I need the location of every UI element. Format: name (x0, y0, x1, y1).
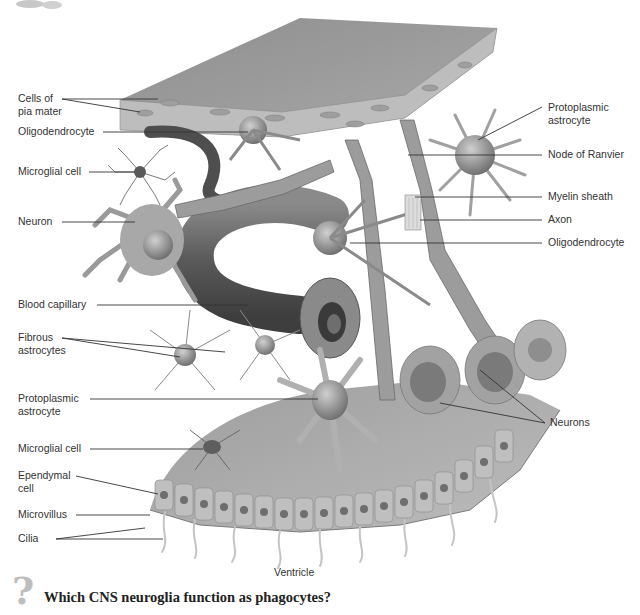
microglial-cell-upper (108, 145, 175, 205)
myelin-sheath-detail (405, 195, 421, 230)
ependymal-layer (150, 380, 560, 568)
label-protoplasmic-astrocyte-left: Protoplasmic astrocyte (18, 392, 79, 418)
protoplasmic-astrocyte-right (430, 110, 525, 215)
label-microglial-cell-upper: Microglial cell (18, 165, 81, 178)
label-protoplasmic-astrocyte-right: Protoplasmic astrocyte (548, 101, 609, 127)
label-node-of-ranvier: Node of Ranvier (548, 148, 624, 161)
label-microvillus: Microvillus (18, 508, 67, 521)
label-microglial-cell-lower: Microglial cell (18, 442, 81, 455)
label-oligodendrocyte-left: Oligodendrocyte (18, 125, 94, 138)
label-ventricle: Ventricle (274, 566, 314, 579)
label-axon: Axon (548, 213, 572, 226)
neuron-left (85, 180, 195, 300)
label-neuron: Neuron (18, 215, 52, 228)
question-mark-icon: ? (12, 572, 34, 610)
label-neurons: Neurons (550, 416, 590, 429)
review-question: Which CNS neuroglia function as phagocyt… (44, 589, 331, 606)
neuroglia-illustration (0, 0, 640, 615)
myelinated-axons (175, 120, 505, 400)
corner-mark (16, 0, 62, 9)
label-myelin-sheath: Myelin sheath (548, 190, 613, 203)
label-ependymal-cell: Ependymal cell (18, 469, 71, 495)
label-fibrous-astrocytes: Fibrous astrocytes (18, 331, 66, 357)
label-oligodendrocyte-right: Oligodendrocyte (548, 236, 624, 249)
label-cilia: Cilia (18, 532, 38, 545)
label-blood-capillary: Blood capillary (18, 298, 86, 311)
label-cells-of-pia-mater: Cells of pia mater (18, 92, 62, 118)
pia-mater (120, 18, 497, 137)
